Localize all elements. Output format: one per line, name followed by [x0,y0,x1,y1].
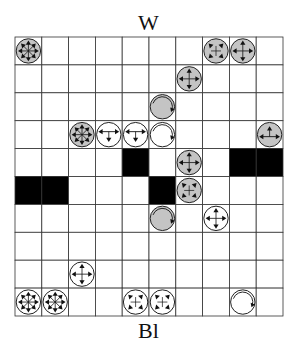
board-cell[interactable] [122,65,149,93]
board-cell[interactable] [229,65,256,93]
board-cell[interactable] [42,149,69,177]
blocked-cell[interactable] [15,177,42,205]
board-cell[interactable] [95,260,122,288]
board-cell[interactable] [149,260,176,288]
board-cell[interactable] [229,121,256,149]
board-cell[interactable] [69,93,96,121]
board-cell[interactable] [15,65,42,93]
board-cell[interactable] [176,37,203,65]
board-cell[interactable] [15,260,42,288]
board-cell[interactable] [122,93,149,121]
board-cell[interactable] [256,93,283,121]
board-cell[interactable] [256,204,283,232]
grey-star-piece[interactable] [16,39,40,63]
board-cell[interactable] [149,65,176,93]
grey-orthogonal-piece[interactable] [177,150,201,174]
board-cell[interactable] [229,260,256,288]
board-cell[interactable] [95,288,122,316]
grey-orthogonal-piece[interactable] [231,39,255,63]
board-cell[interactable] [122,37,149,65]
board-cell[interactable] [15,93,42,121]
board-cell[interactable] [176,260,203,288]
board-cell[interactable] [203,232,230,260]
board-cell[interactable] [42,232,69,260]
grey-t-up-piece[interactable] [257,122,281,146]
board-cell[interactable] [176,93,203,121]
board-cell[interactable] [203,65,230,93]
white-diagonal-piece[interactable] [150,290,174,314]
board-cell[interactable] [229,232,256,260]
blocked-cell[interactable] [122,149,149,177]
board-cell[interactable] [256,37,283,65]
grey-rotator-piece[interactable] [150,95,175,119]
board-cell[interactable] [15,232,42,260]
board-cell[interactable] [203,93,230,121]
board-cell[interactable] [95,65,122,93]
game-board[interactable] [0,0,297,350]
board-cell[interactable] [203,149,230,177]
grey-rotator-piece[interactable] [150,206,175,230]
board-cell[interactable] [256,260,283,288]
board-cell[interactable] [69,204,96,232]
board-cell[interactable] [203,177,230,205]
board-cell[interactable] [122,204,149,232]
board-cell[interactable] [229,204,256,232]
board-cell[interactable] [256,177,283,205]
grey-star-piece[interactable] [70,122,94,146]
board-cell[interactable] [256,288,283,316]
board-cell[interactable] [95,204,122,232]
board-cell[interactable] [176,204,203,232]
board-cell[interactable] [203,288,230,316]
board-cell[interactable] [256,65,283,93]
board-cell[interactable] [42,204,69,232]
board-cell[interactable] [42,65,69,93]
board-cell[interactable] [229,177,256,205]
grey-diagonal-piece[interactable] [177,178,201,202]
white-orthogonal-piece[interactable] [70,262,94,286]
board-cell[interactable] [15,149,42,177]
board-cell[interactable] [42,37,69,65]
board-cell[interactable] [149,149,176,177]
board-cell[interactable] [42,93,69,121]
white-t-down-piece[interactable] [123,122,147,146]
white-orthogonal-piece[interactable] [204,206,228,230]
board-cell[interactable] [95,177,122,205]
board-cell[interactable] [95,37,122,65]
board-cell[interactable] [69,37,96,65]
board-cell[interactable] [69,288,96,316]
board-cell[interactable] [203,260,230,288]
board-cell[interactable] [176,232,203,260]
white-rotator-piece[interactable] [150,122,175,146]
white-star-piece[interactable] [16,290,40,314]
board-cell[interactable] [69,65,96,93]
board-cell[interactable] [176,121,203,149]
board-cell[interactable] [203,121,230,149]
blocked-cell[interactable] [42,177,69,205]
blocked-cell[interactable] [149,177,176,205]
board-cell[interactable] [69,177,96,205]
board-cell[interactable] [95,93,122,121]
board-cell[interactable] [122,177,149,205]
white-rotator-piece[interactable] [231,290,256,314]
board-cell[interactable] [15,204,42,232]
board-cell[interactable] [42,260,69,288]
board-cell[interactable] [42,121,69,149]
white-star-piece[interactable] [43,290,67,314]
white-t-down-piece[interactable] [97,122,121,146]
white-diagonal-piece[interactable] [123,290,147,314]
board-cell[interactable] [229,93,256,121]
board-cell[interactable] [122,260,149,288]
board-cell[interactable] [256,232,283,260]
blocked-cell[interactable] [256,149,283,177]
board-cell[interactable] [69,232,96,260]
grey-diagonal-piece[interactable] [204,39,228,63]
board-cell[interactable] [149,232,176,260]
board-cell[interactable] [122,232,149,260]
board-cell[interactable] [149,37,176,65]
grey-orthogonal-piece[interactable] [177,67,201,91]
board-cell[interactable] [15,121,42,149]
board-cell[interactable] [69,149,96,177]
board-cell[interactable] [176,288,203,316]
board-cell[interactable] [95,232,122,260]
board-cell[interactable] [95,149,122,177]
